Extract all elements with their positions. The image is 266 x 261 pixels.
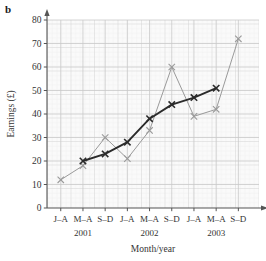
y-tick-label: 80 bbox=[32, 15, 42, 25]
x-category-labels: J–AM–AS–DJ–AM–AS–DJ–AM–AS–D bbox=[54, 214, 247, 224]
y-tick-label: 70 bbox=[32, 39, 42, 49]
y-tick-label: 30 bbox=[32, 133, 42, 143]
x-category-label: S–D bbox=[97, 214, 114, 224]
y-axis-ticks: 01020304050607080 bbox=[32, 15, 47, 213]
x-category-label: S–D bbox=[164, 214, 181, 224]
y-tick-label: 20 bbox=[32, 156, 42, 166]
x-category-label: J–A bbox=[120, 214, 135, 224]
x-year-label: 2001 bbox=[74, 228, 92, 238]
y-axis-title: Earnings (£) bbox=[6, 90, 17, 137]
chart-figure: b 01020304050607080 J–AM–AS–DJ–AM–AS–DJ–… bbox=[0, 0, 266, 261]
x-year-label: 2003 bbox=[207, 228, 226, 238]
y-tick-label: 60 bbox=[32, 62, 42, 72]
x-year-label: 2002 bbox=[141, 228, 159, 238]
x-category-label: J–A bbox=[54, 214, 69, 224]
x-category-label: S–D bbox=[230, 214, 247, 224]
y-tick-label: 0 bbox=[37, 203, 42, 213]
y-tick-label: 50 bbox=[32, 86, 42, 96]
x-axis-title: Month/year bbox=[131, 244, 176, 254]
x-year-labels: 200120022003 bbox=[74, 228, 226, 238]
line-chart-svg: 01020304050607080 J–AM–AS–DJ–AM–AS–DJ–AM… bbox=[0, 0, 266, 261]
y-tick-label: 10 bbox=[32, 180, 42, 190]
y-tick-label: 40 bbox=[32, 109, 42, 119]
x-category-label: M–A bbox=[207, 214, 227, 224]
panel-letter: b bbox=[5, 3, 11, 15]
x-category-label: M–A bbox=[140, 214, 160, 224]
x-category-label: M–A bbox=[73, 214, 93, 224]
x-category-label: J–A bbox=[187, 214, 202, 224]
